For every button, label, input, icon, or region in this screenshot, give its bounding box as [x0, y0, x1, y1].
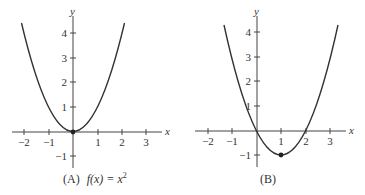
chart-b: −2 −1 1 2 3 4 3 2 1 −1 x y (B) [195, 5, 354, 186]
y-tick-label: −1 [55, 150, 67, 162]
x-tick-label: −1 [226, 135, 238, 147]
y-tick-label: 4 [62, 27, 68, 39]
y-axis-label-b: y [253, 5, 259, 17]
y-tick-label: 2 [62, 76, 68, 88]
figure: −2 −1 1 2 3 4 3 2 1 −1 x y (A) f(x) = x2 [0, 0, 365, 195]
x-tick-label: 2 [303, 135, 309, 147]
x-tick-label: 1 [95, 136, 101, 148]
caption-a: (A) f(x) = x2 [63, 171, 127, 186]
y-axis-label-a: y [69, 5, 75, 17]
x-axis-label-b: x [348, 124, 354, 136]
y-tick-label: −1 [239, 149, 251, 161]
vertex-point-a [71, 130, 76, 135]
x-tick-label: −2 [202, 135, 214, 147]
y-tick-label: 3 [62, 52, 68, 64]
y-tick-label: 2 [246, 75, 252, 87]
x-tick-label: 1 [278, 135, 284, 147]
x-tick-label: 3 [327, 135, 333, 147]
x-axis-label-a: x [164, 125, 170, 137]
caption-b: (B) [260, 172, 276, 186]
vertex-point-b [279, 153, 284, 158]
x-tick-label: 3 [143, 136, 149, 148]
x-tick-label: 2 [119, 136, 125, 148]
chart-a: −2 −1 1 2 3 4 3 2 1 −1 x y (A) f(x) = x2 [12, 5, 170, 186]
y-tick-label: 4 [246, 26, 252, 38]
x-tick-label: −1 [43, 136, 55, 148]
y-tick-label: 3 [246, 51, 252, 63]
x-tick-label: −2 [18, 136, 30, 148]
y-tick-label: 1 [62, 101, 68, 113]
